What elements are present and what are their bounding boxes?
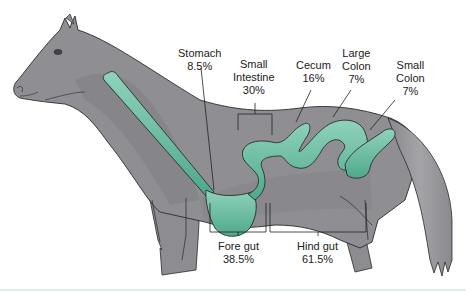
stomach-label: Stomach 8.5% — [178, 47, 221, 73]
stomach-shape — [206, 190, 256, 236]
large-colon-label: Large Colon 7% — [342, 47, 371, 86]
fore-gut-label: Fore gut 38.5% — [218, 240, 259, 266]
horse-digestive-diagram: Stomach 8.5% Small Intestine 30% Cecum 1… — [0, 0, 466, 295]
eye — [54, 50, 62, 55]
hind-gut-label: Hind gut 61.5% — [297, 240, 338, 266]
small-colon-label: Small Colon 7% — [396, 59, 425, 98]
cecum-label: Cecum 16% — [296, 59, 331, 85]
small-intestine-label: Small Intestine 30% — [233, 58, 275, 97]
bottom-divider — [0, 289, 466, 291]
